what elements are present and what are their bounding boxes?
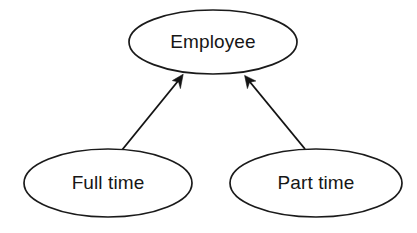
full-time-label: Full time [72, 172, 145, 193]
part-time-label: Part time [278, 172, 355, 193]
edge-part-time-to-employee[interactable] [245, 75, 305, 149]
edge-line-part-time [248, 79, 306, 149]
node-part-time[interactable]: Part time [230, 149, 402, 217]
node-full-time[interactable]: Full time [24, 149, 192, 217]
edge-line-full-time [122, 78, 181, 150]
diagram-canvas: Employee Full time Part time [0, 0, 417, 233]
employee-label: Employee [170, 31, 255, 52]
node-employee[interactable]: Employee [129, 10, 297, 74]
edge-full-time-to-employee[interactable] [122, 74, 183, 150]
generalization-diagram: Employee Full time Part time [0, 0, 417, 233]
